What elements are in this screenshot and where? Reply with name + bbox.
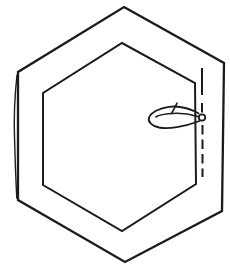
outer-hexagon [18,7,224,262]
knot-circle [199,114,205,120]
sketch-overdraw-line [14,75,17,198]
illustration-page [0,0,230,273]
hexagon-diagram [0,0,230,273]
thread-loop-inner [156,113,198,117]
thread-loop-tail [172,103,178,113]
inner-hexagon [43,43,196,231]
